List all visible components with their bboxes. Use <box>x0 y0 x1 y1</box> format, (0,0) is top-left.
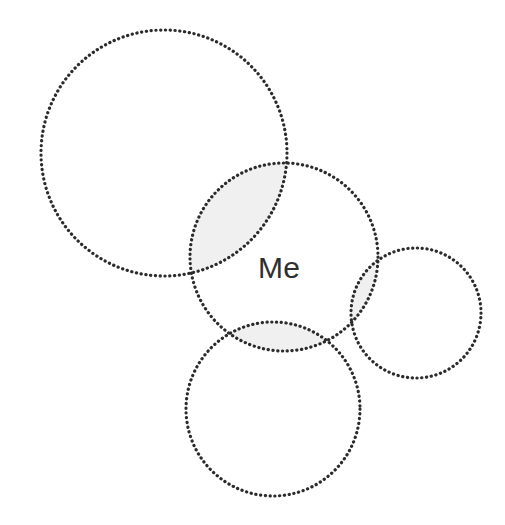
upper-left-circle[interactable] <box>41 30 287 276</box>
venn-diagram-svg: Me <box>0 0 505 525</box>
me-label: Me <box>258 251 300 284</box>
venn-diagram-canvas: Me <box>0 0 505 525</box>
right-small-circle[interactable] <box>351 248 481 378</box>
